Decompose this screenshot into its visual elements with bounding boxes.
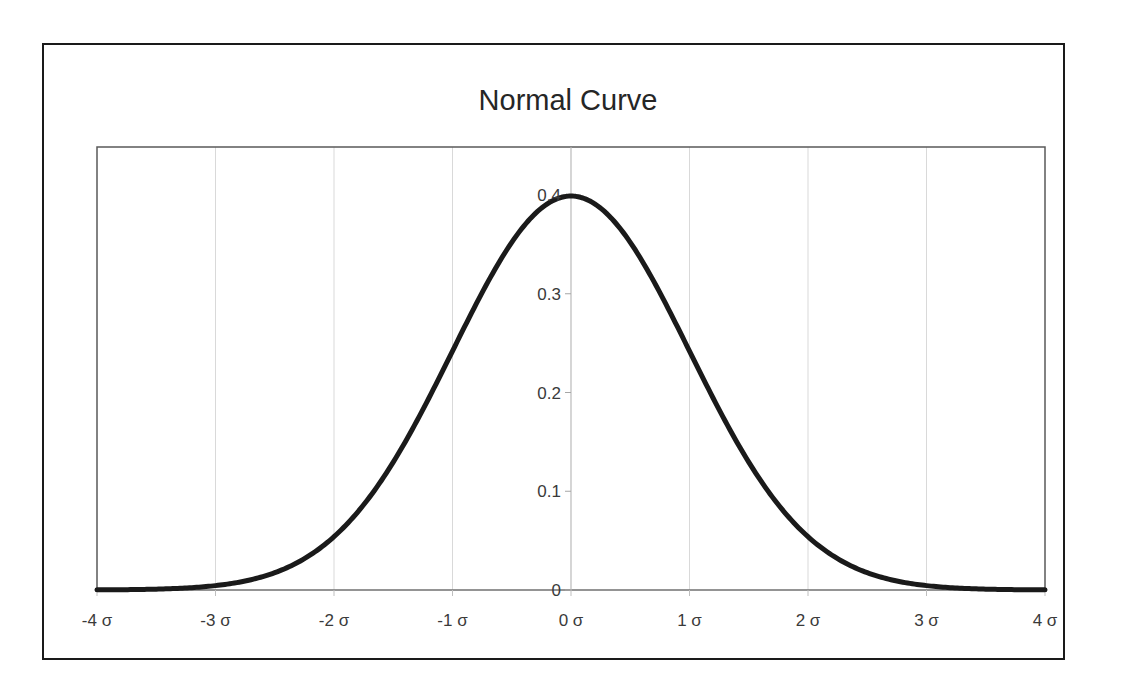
- x-axis: [97, 590, 1045, 596]
- plot-area: -4 σ-3 σ-2 σ-1 σ0 σ1 σ2 σ3 σ4 σ 00.10.20…: [0, 0, 1136, 686]
- y-tick-label: 0.3: [537, 285, 561, 304]
- y-axis: [565, 147, 571, 590]
- x-tick-label: -3 σ: [200, 611, 231, 630]
- y-tick-label: 0.1: [537, 482, 561, 501]
- x-tick-label: -1 σ: [437, 611, 468, 630]
- y-tick-label: 0.2: [537, 384, 561, 403]
- x-axis-tick-labels: -4 σ-3 σ-2 σ-1 σ0 σ1 σ2 σ3 σ4 σ: [82, 611, 1058, 630]
- x-tick-label: 3 σ: [914, 611, 939, 630]
- x-tick-label: 2 σ: [796, 611, 821, 630]
- y-tick-label: 0: [552, 581, 561, 600]
- y-axis-tick-labels: 00.10.20.30.4: [537, 186, 561, 600]
- x-tick-label: -4 σ: [82, 611, 113, 630]
- x-tick-label: 4 σ: [1033, 611, 1058, 630]
- chart-canvas: Normal Curve -4 σ-3 σ-2 σ-1 σ0 σ1 σ2 σ3 …: [0, 0, 1136, 686]
- x-tick-label: 1 σ: [677, 611, 702, 630]
- y-tick-label: 0.4: [537, 186, 561, 205]
- x-tick-label: -2 σ: [319, 611, 350, 630]
- x-tick-label: 0 σ: [559, 611, 584, 630]
